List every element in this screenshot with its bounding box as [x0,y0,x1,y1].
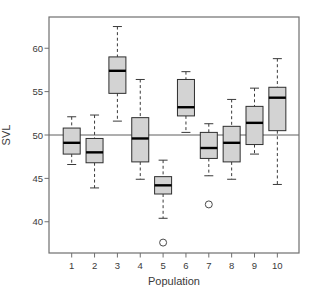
x-tick-label: 8 [222,260,242,271]
outlier-point [205,201,212,208]
boxplot-pop-9 [246,88,263,154]
outlier-point [160,239,167,246]
iqr-box [246,106,263,144]
boxplot-pop-1 [63,117,80,165]
boxplot-pop-10 [269,59,286,185]
x-tick-label: 10 [267,260,287,271]
boxplot-pop-7 [200,124,217,208]
boxplot-pop-3 [109,27,126,122]
iqr-box [132,118,149,162]
iqr-box [269,87,286,130]
x-tick-label: 9 [245,260,265,271]
y-tick-label: 55 [23,86,43,97]
iqr-box [223,126,240,162]
y-tick-label: 60 [23,43,43,54]
x-tick-label: 1 [62,260,82,271]
iqr-box [177,79,194,115]
iqr-box [63,128,80,154]
boxplot-pop-5 [155,160,172,246]
x-tick-label: 2 [85,260,105,271]
iqr-box [86,138,103,162]
x-tick-label: 6 [176,260,196,271]
x-tick-label: 7 [199,260,219,271]
iqr-box [200,132,217,158]
x-tick-label: 3 [107,260,127,271]
x-tick-label: 4 [130,260,150,271]
boxplot-pop-6 [177,72,194,133]
boxplot-pop-2 [86,115,103,188]
boxplot-figure: SVL Population 404550556012345678910 [0,0,313,300]
y-tick-label: 50 [23,130,43,141]
plot-svg [0,0,313,300]
boxplot-pop-4 [132,79,149,179]
y-tick-label: 45 [23,173,43,184]
x-tick-label: 5 [153,260,173,271]
x-axis-title: Population [49,275,299,287]
y-tick-label: 40 [23,216,43,227]
y-axis-title: SVL [0,100,12,170]
iqr-box [109,57,126,93]
boxplot-pop-8 [223,99,240,179]
